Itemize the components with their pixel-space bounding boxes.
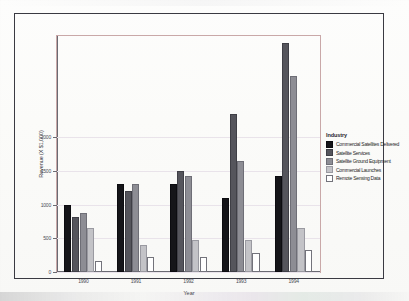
scan-artifact-top xyxy=(0,0,409,6)
x-tick-label: 1994 xyxy=(289,278,299,284)
gridline xyxy=(57,272,320,273)
bar[interactable] xyxy=(87,228,94,272)
y-tick-mark xyxy=(53,205,57,206)
y-tick-mark xyxy=(53,171,57,172)
y-axis-line xyxy=(57,36,58,272)
bar[interactable] xyxy=(237,161,244,272)
bar[interactable] xyxy=(147,257,154,272)
scanned-page: Revenue (X $1,000) Year 0500100015002000… xyxy=(0,0,409,301)
x-tick-label: 1993 xyxy=(236,278,246,284)
y-tick-label: 1000 xyxy=(41,202,51,208)
x-tick-label: 1990 xyxy=(78,278,88,284)
bar[interactable] xyxy=(95,261,102,272)
bar[interactable] xyxy=(297,228,304,273)
legend-swatch-icon xyxy=(326,149,333,156)
bar[interactable] xyxy=(185,176,192,272)
bar-group xyxy=(117,36,155,272)
y-tick-label: 2000 xyxy=(41,134,51,140)
legend-item[interactable]: Commercial Launches xyxy=(326,166,399,174)
bar[interactable] xyxy=(230,114,237,272)
legend-items: Commercial Satellites DeliveredSatellite… xyxy=(326,140,399,182)
y-tick-mark xyxy=(53,238,57,239)
bar[interactable] xyxy=(305,250,312,272)
y-tick-label: 1500 xyxy=(41,168,51,174)
plot-panel: 0500100015002000 19901991199219931994 xyxy=(56,35,321,273)
legend-title: Industry xyxy=(326,132,399,138)
legend-item-label: Commercial Launches xyxy=(336,167,381,173)
bar[interactable] xyxy=(140,245,147,272)
bar[interactable] xyxy=(170,184,177,272)
bar[interactable] xyxy=(64,205,71,272)
y-tick-label: 500 xyxy=(43,235,51,241)
legend: Industry Commercial Satellites Delivered… xyxy=(326,132,399,183)
bar-group xyxy=(275,36,313,272)
bar-group xyxy=(222,36,260,272)
legend-item[interactable]: Commercial Satellites Delivered xyxy=(326,140,399,148)
bar[interactable] xyxy=(125,191,132,272)
bar-group xyxy=(64,36,102,272)
legend-item[interactable]: Satellite Services xyxy=(326,149,399,157)
legend-swatch-icon xyxy=(326,175,333,182)
bar[interactable] xyxy=(282,43,289,272)
bar[interactable] xyxy=(80,213,87,272)
bar[interactable] xyxy=(132,184,139,272)
legend-item[interactable]: Satellite Ground Equipment xyxy=(326,157,399,165)
plot-area: 0500100015002000 19901991199219931994 xyxy=(57,36,320,272)
bar[interactable] xyxy=(72,217,79,272)
legend-item-label: Commercial Satellites Delivered xyxy=(336,141,399,147)
legend-item-label: Remote Sensing Data xyxy=(336,175,380,181)
bar[interactable] xyxy=(177,171,184,272)
x-tick-label: 1992 xyxy=(183,278,193,284)
bar[interactable] xyxy=(245,240,252,272)
y-tick-label: 0 xyxy=(48,269,51,275)
x-tick-label: 1991 xyxy=(131,278,141,284)
bar[interactable] xyxy=(192,240,199,272)
bar[interactable] xyxy=(275,176,282,272)
legend-item[interactable]: Remote Sensing Data xyxy=(326,174,399,182)
y-tick-mark xyxy=(53,272,57,273)
scan-artifact-bottom xyxy=(0,292,409,301)
bar[interactable] xyxy=(252,253,259,272)
legend-swatch-icon xyxy=(326,166,333,173)
legend-item-label: Satellite Services xyxy=(336,150,370,156)
bar[interactable] xyxy=(200,257,207,273)
y-tick-mark xyxy=(53,137,57,138)
legend-swatch-icon xyxy=(326,158,333,165)
legend-item-label: Satellite Ground Equipment xyxy=(336,158,391,164)
figure-frame: Revenue (X $1,000) Year 0500100015002000… xyxy=(14,13,384,279)
bar-group xyxy=(170,36,208,272)
legend-swatch-icon xyxy=(326,141,333,148)
bar[interactable] xyxy=(290,76,297,272)
bar[interactable] xyxy=(117,184,124,272)
bar[interactable] xyxy=(222,198,229,272)
